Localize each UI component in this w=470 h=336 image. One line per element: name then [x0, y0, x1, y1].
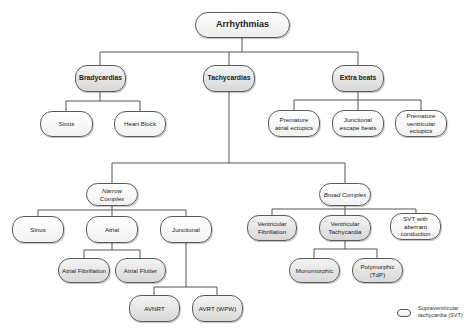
node-extra-beats: Extra beats	[332, 65, 384, 92]
node-premature-ventricular-ectopics: Premature ventricular ectopics	[395, 110, 447, 137]
node-bradycardias: Bradycardias	[75, 65, 126, 92]
node-tachycardias: Tachycardias	[203, 65, 255, 92]
node-ventricular-fibrillation: Ventricular Fibrillation	[247, 215, 297, 241]
legend-label: Supraventricular tachycardia (SVT)	[418, 305, 470, 320]
node-avnrt: AVNRT	[129, 295, 180, 322]
node-brady-sinus: Sinus	[40, 111, 93, 137]
node-monomorphic: Monomorphic	[289, 258, 340, 283]
node-ventricular-tachycardia: Ventricular Tachycardia	[319, 215, 371, 241]
connector-lines	[0, 0, 470, 336]
node-arrhythmias: Arrhythmias	[195, 12, 290, 38]
node-premature-atrial-ectopics: Premature atrial ectopics	[268, 110, 320, 137]
node-atrial-fibrillation: Atrial Fibrillation	[58, 258, 110, 283]
legend-swatch	[397, 309, 411, 317]
node-avrt-wpw: AVRT (WPW)	[192, 295, 243, 322]
node-polymorphic-tdp: Polymorphic (TdP)	[352, 258, 403, 283]
node-narrow-complex: Narrow Complex	[86, 183, 138, 206]
node-atrial: Atrial	[86, 216, 138, 243]
node-atrial-flutter: Atrial Flutter	[115, 258, 166, 283]
node-heart-block: Heart Block	[114, 111, 166, 137]
node-svt-aberrant: SVT with aberrant conduction	[390, 213, 441, 240]
node-broad-complex: Broad Complex	[319, 183, 371, 206]
node-narrow-sinus: Sinus	[12, 216, 64, 243]
node-junctional: Junctional	[160, 216, 212, 243]
node-junctional-escape-beats: Junctional escape beats	[332, 110, 384, 137]
